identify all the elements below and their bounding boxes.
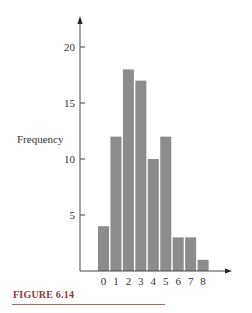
x-tick-label: 5 <box>163 275 169 287</box>
y-tick-label: 15 <box>64 97 76 109</box>
bar-5 <box>160 137 171 271</box>
y-tick-label: 10 <box>64 153 76 165</box>
bar-2 <box>123 69 134 271</box>
y-tick-label: 5 <box>70 209 76 221</box>
bar-1 <box>110 137 121 271</box>
bar-8 <box>198 260 209 271</box>
bar-4 <box>148 159 159 271</box>
x-tick-label: 2 <box>126 275 132 287</box>
y-tick-label: 20 <box>64 41 76 53</box>
x-tick-label: 6 <box>175 275 181 287</box>
bar-7 <box>185 237 196 271</box>
x-tick-label: 0 <box>101 275 107 287</box>
bar-0 <box>98 226 109 271</box>
x-tick-label: 8 <box>200 275 206 287</box>
y-axis-label: Frequency <box>17 133 63 145</box>
y-axis-arrow-icon <box>78 16 83 24</box>
bar-6 <box>173 237 184 271</box>
x-tick-label: 4 <box>151 275 157 287</box>
figure-caption: FIGURE 6.14 <box>13 289 74 300</box>
x-axis-arrow-icon <box>225 269 232 274</box>
histogram-chart: 0123456785101520 <box>0 0 252 313</box>
x-tick-label: 1 <box>113 275 119 287</box>
caption-divider <box>12 304 165 305</box>
x-tick-label: 7 <box>188 275 194 287</box>
bar-3 <box>135 81 146 271</box>
x-tick-label: 3 <box>138 275 144 287</box>
